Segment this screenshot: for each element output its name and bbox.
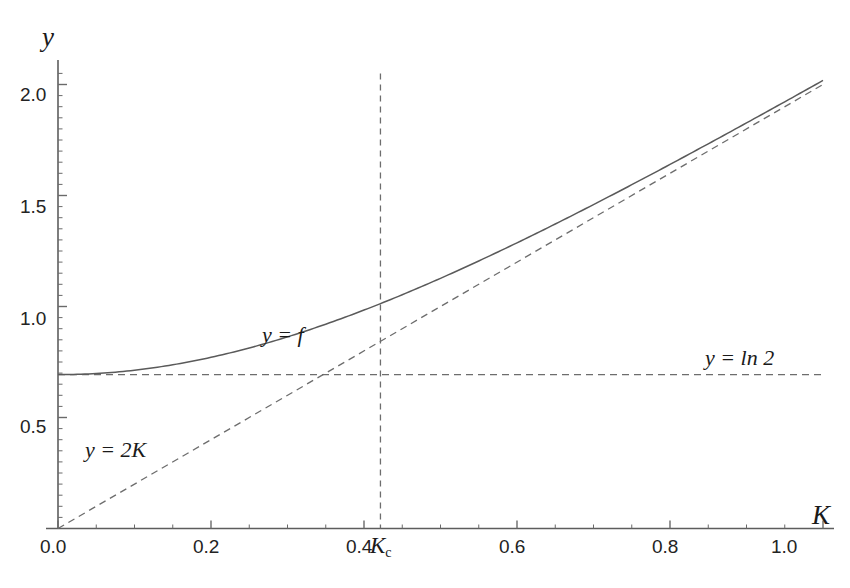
series-label-ln2-text: y = ln 2	[705, 345, 774, 370]
axes-group	[46, 60, 834, 529]
y-tick-label-0-5: 0.5	[20, 416, 46, 438]
kc-main-text: K	[370, 533, 385, 558]
x-tick-label-0-2: 0.2	[193, 536, 219, 558]
x-tick-label-0-0: 0.0	[40, 536, 66, 558]
x-tick-label-1-0: 1.0	[771, 536, 797, 558]
series-line-f	[58, 80, 823, 374]
kc-subscript-text: c	[385, 545, 391, 560]
y-tick-label-1-0: 1.0	[20, 308, 46, 330]
y-axis-label: y	[42, 22, 54, 53]
chart-canvas	[0, 0, 850, 588]
x-tick-label-0-6: 0.6	[499, 536, 525, 558]
series-label-2k: y = 2K	[85, 437, 146, 463]
x-tick-label-0-8: 0.8	[652, 536, 678, 558]
series-label-ln2: y = ln 2	[705, 345, 774, 371]
series-label-f-text: y = f	[262, 322, 304, 347]
series-line-2k	[58, 85, 823, 529]
kc-annotation-label: Kc	[370, 533, 392, 559]
series-label-f: y = f	[262, 322, 304, 348]
series-group	[58, 73, 823, 528]
x-axis-ticks	[58, 521, 823, 529]
y-axis-ticks	[58, 73, 67, 517]
x-axis-label: K	[812, 500, 830, 531]
y-tick-label-2-0: 2.0	[20, 84, 46, 106]
series-label-2k-text: y = 2K	[85, 437, 146, 462]
y-tick-label-1-5: 1.5	[20, 196, 46, 218]
x-tick-label-0-4: 0.4	[346, 536, 372, 558]
